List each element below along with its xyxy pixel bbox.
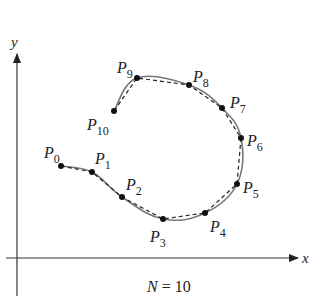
point-label-p7: P7: [229, 94, 246, 116]
smooth-curve: [61, 76, 243, 220]
point-label-p1: P1: [94, 150, 111, 172]
point-marker-p6: [238, 135, 244, 141]
point-label-p0: P0: [43, 144, 60, 166]
point-label-p4: P4: [209, 218, 226, 240]
points-group: [58, 75, 244, 222]
caption-eq: = 10: [158, 278, 191, 295]
point-label-p5: P5: [242, 179, 259, 201]
curve-approximation-diagram: y x P0P1P2P3P4P5P6P7P8P9P10 N = 10: [0, 0, 317, 306]
point-label-p10: P10: [86, 116, 109, 138]
point-marker-p8: [186, 82, 192, 88]
point-marker-p9: [134, 75, 140, 81]
point-marker-p4: [202, 210, 208, 216]
point-marker-p7: [219, 105, 225, 111]
point-labels-group: P0P1P2P3P4P5P6P7P8P9P10: [43, 59, 263, 250]
point-label-p2: P2: [125, 176, 142, 198]
point-marker-p1: [89, 169, 95, 175]
point-marker-p3: [160, 216, 166, 222]
point-label-p6: P6: [246, 132, 263, 154]
x-axis-label: x: [301, 250, 309, 266]
point-label-p3: P3: [149, 228, 166, 250]
point-marker-p10: [111, 108, 117, 114]
y-axis-label: y: [9, 34, 18, 50]
caption: N = 10: [146, 278, 191, 295]
point-marker-p2: [119, 194, 125, 200]
point-label-p9: P9: [116, 59, 133, 81]
point-marker-p5: [234, 181, 240, 187]
